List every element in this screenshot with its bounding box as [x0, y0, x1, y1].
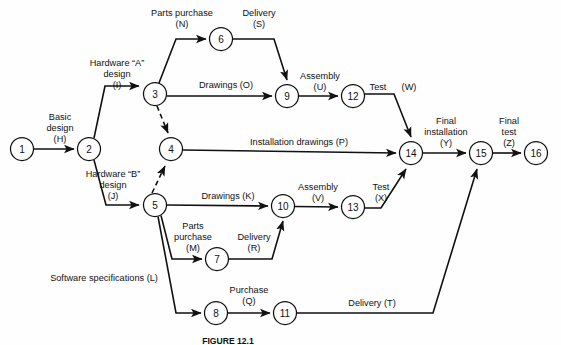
- edge-label-parts-purchase-m-line2: purchase: [174, 232, 212, 242]
- node-13[interactable]: 13: [342, 196, 365, 219]
- node-14[interactable]: 14: [400, 142, 423, 165]
- edge-label-hardware-a-line2: design: [103, 69, 130, 79]
- edge-label-test-w-line2: (W): [402, 82, 417, 92]
- edge-label-test-x-line1: Test: [373, 182, 390, 192]
- node-8[interactable]: 8: [205, 302, 228, 325]
- edge-label-delivery-s-line1: Delivery: [242, 8, 276, 18]
- edge-label-hardware-b-line1: Hardware “B”: [86, 169, 141, 179]
- node-5[interactable]: 5: [144, 194, 167, 217]
- edge-label-parts-purchase-m-line3: (M): [186, 243, 200, 253]
- edge-6-9-delivery-S: [233, 39, 288, 80]
- node-13-label: 13: [347, 202, 359, 213]
- edge-label-purchase-q-line1: Purchase: [230, 285, 269, 295]
- node-1[interactable]: 1: [11, 138, 34, 161]
- edge-label-final-installation-line1: Final: [436, 116, 456, 126]
- node-12[interactable]: 12: [342, 85, 365, 108]
- edge-4-14-installation-drawings-P: [183, 150, 397, 153]
- edge-10-13-assembly-V: [295, 207, 339, 208]
- edge-label-final-test-line2: test: [502, 127, 517, 137]
- edge-label-final-test-line1: Final: [499, 116, 519, 126]
- edge-label-software-specifications-l: Software specifications (L): [50, 273, 158, 283]
- edge-label-final-installation-line3: (Y): [440, 138, 452, 148]
- edge-label-assembly-v-line2: (V): [312, 193, 324, 203]
- node-7-label: 7: [214, 254, 220, 265]
- edge-label-basic-design-line2: design: [46, 123, 73, 133]
- node-9[interactable]: 9: [276, 85, 299, 108]
- node-9-label: 9: [284, 91, 290, 102]
- edge-label-drawings-k: Drawings (K): [201, 191, 254, 201]
- node-3-label: 3: [152, 89, 158, 100]
- edge-5-10-drawings-K: [167, 205, 269, 206]
- node-15-label: 15: [475, 148, 487, 159]
- node-16-label: 16: [530, 148, 542, 159]
- edge-label-hardware-a-line3: (I): [113, 80, 122, 90]
- node-6[interactable]: 6: [210, 28, 233, 51]
- node-10-label: 10: [277, 201, 289, 212]
- node-6-label: 6: [218, 34, 224, 45]
- edge-label-delivery-r-line1: Delivery: [237, 232, 271, 242]
- edge-label-final-installation-line2: installation: [424, 127, 467, 137]
- edge-3-4-dummy: [157, 106, 168, 133]
- edge-label-hardware-b-line3: (J): [108, 191, 119, 201]
- edge-label-installation-drawings-p: Installation drawings (P): [250, 137, 348, 147]
- edge-label-final-test-line3: (Z): [503, 138, 515, 148]
- edge-label-assembly-u-line2: (U): [314, 82, 327, 92]
- edge-label-assembly-u-line1: Assembly: [300, 71, 340, 81]
- edge-label-hardware-a-line1: Hardware “A”: [90, 58, 145, 68]
- node-1-label: 1: [19, 144, 25, 155]
- edge-label-delivery-s-line2: (S): [253, 19, 265, 29]
- network-diagram-root: 1 2 3 4 5 6 7: [0, 0, 561, 345]
- node-10[interactable]: 10: [272, 195, 295, 218]
- edge-label-purchase-q-line2: (Q): [242, 296, 255, 306]
- node-8-label: 8: [213, 308, 219, 319]
- node-4[interactable]: 4: [160, 138, 183, 161]
- edge-label-assembly-v-line1: Assembly: [298, 182, 338, 192]
- node-7[interactable]: 7: [206, 248, 229, 271]
- edge-3-6-parts-purchase-N: [159, 39, 206, 83]
- edge-label-delivery-t: Delivery (T): [348, 298, 395, 308]
- node-5-label: 5: [152, 200, 158, 211]
- edge-label-parts-purchase-n-line2: (N): [176, 19, 189, 29]
- node-2-label: 2: [86, 144, 92, 155]
- node-15[interactable]: 15: [470, 142, 493, 165]
- node-12-label: 12: [347, 91, 359, 102]
- node-14-label: 14: [405, 148, 417, 159]
- edge-label-hardware-b-line2: design: [99, 180, 126, 190]
- edge-label-basic-design-line3: (H): [54, 134, 67, 144]
- edge-5-4-dummy: [152, 166, 165, 193]
- edge-label-basic-design-line1: Basic: [49, 112, 72, 122]
- node-2[interactable]: 2: [78, 138, 101, 161]
- edge-label-parts-purchase-m-line1: Parts: [182, 221, 204, 231]
- edge-12-14-test-W: [365, 94, 412, 137]
- edge-label-delivery-r-line2: (R): [248, 243, 261, 253]
- network-diagram-canvas: 1 2 3 4 5 6 7: [0, 0, 561, 345]
- node-11-label: 11: [280, 308, 291, 319]
- node-4-label: 4: [168, 144, 174, 155]
- edge-label-test-x-line2: (X): [375, 193, 387, 203]
- figure-caption: FIGURE 12.1: [202, 336, 254, 345]
- edge-label-parts-purchase-n-line1: Parts purchase: [151, 8, 213, 18]
- node-16[interactable]: 16: [525, 142, 548, 165]
- edge-label-drawings-o: Drawings (O): [199, 80, 253, 90]
- edge-2-3-hardware-a-design-I: [94, 86, 139, 138]
- edge-label-test-w-line1: Test: [370, 82, 387, 92]
- node-3[interactable]: 3: [144, 83, 167, 106]
- node-11[interactable]: 11: [274, 302, 297, 325]
